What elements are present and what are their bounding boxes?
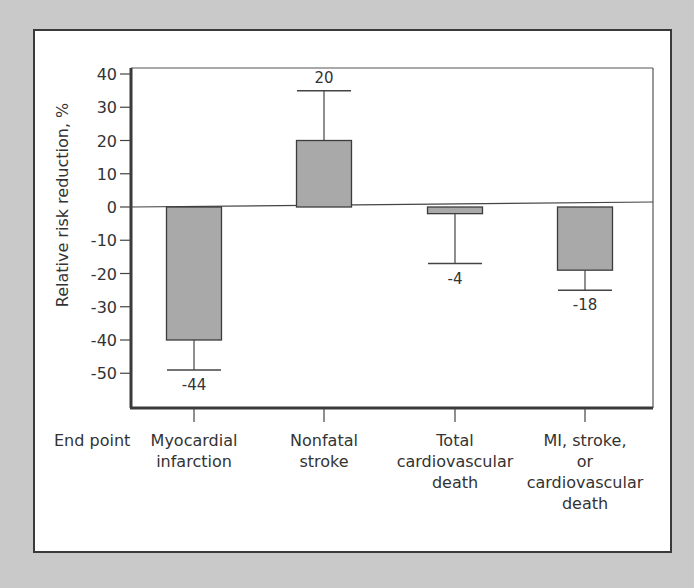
x-tick-label: death — [562, 494, 608, 513]
y-tick-label: 30 — [97, 98, 117, 117]
bar — [558, 207, 613, 270]
data-label: 20 — [314, 69, 333, 87]
y-tick-label: 0 — [107, 198, 117, 217]
x-tick-label: cardiovascular — [397, 452, 514, 471]
y-tick-label: -20 — [91, 265, 117, 284]
y-tick-label: -10 — [91, 231, 117, 250]
x-tick-label: stroke — [299, 452, 348, 471]
x-tick-label: Myocardial — [151, 431, 238, 450]
bar — [167, 207, 222, 340]
y-tick-label: -40 — [91, 331, 117, 350]
x-axis-title: End point — [54, 431, 130, 450]
y-tick-label: -50 — [91, 364, 117, 383]
bar — [297, 141, 352, 208]
x-tick-label: Nonfatal — [290, 431, 358, 450]
data-label: -44 — [182, 376, 207, 394]
x-axis: MyocardialinfarctionNonfatalstrokeTotalc… — [151, 408, 644, 513]
bar-chart: 403020100-10-20-30-40-50 -4420-4-18 Myoc… — [0, 0, 694, 588]
data-label: -4 — [448, 270, 463, 288]
x-tick-label: MI, stroke, — [544, 431, 627, 450]
y-tick-label: 20 — [97, 132, 117, 151]
zero-line — [131, 202, 653, 207]
x-tick-label: Total — [435, 431, 473, 450]
bars: -4420-4-18 — [167, 69, 613, 394]
x-tick-label: death — [432, 473, 478, 492]
bar — [428, 207, 483, 214]
y-tick-label: -30 — [91, 298, 117, 317]
x-tick-label: cardiovascular — [527, 473, 644, 492]
x-tick-label: infarction — [156, 452, 232, 471]
y-axis-title: Relative risk reduction, % — [53, 103, 72, 308]
x-tick-label: or — [577, 452, 594, 471]
data-label: -18 — [573, 296, 598, 314]
y-tick-label: 40 — [97, 65, 117, 84]
y-tick-label: 10 — [97, 165, 117, 184]
